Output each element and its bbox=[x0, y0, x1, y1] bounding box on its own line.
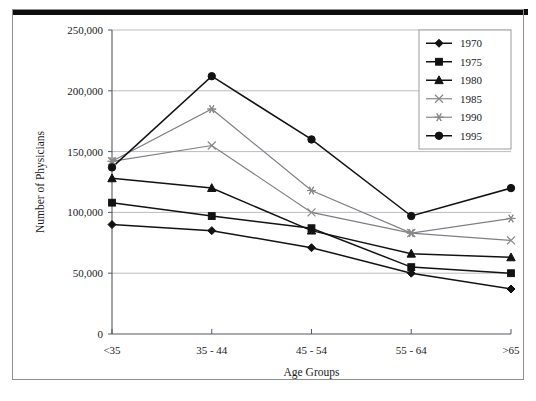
y-tick-label: 200,000 bbox=[67, 85, 103, 97]
legend-marker-1975 bbox=[436, 58, 443, 65]
y-tick-label: 50,000 bbox=[73, 267, 104, 279]
figure-page: 050,000100,000150,000200,000250,000 <353… bbox=[0, 0, 536, 401]
x-tick-label: 45 - 54 bbox=[296, 344, 328, 356]
marker-1970-35 - 44 bbox=[208, 227, 216, 235]
legend-label-1985: 1985 bbox=[460, 93, 483, 105]
y-axis-tick-labels: 050,000100,000150,000200,000250,000 bbox=[67, 24, 103, 340]
marker-1975->65 bbox=[508, 270, 515, 277]
marker-1995-<35 bbox=[108, 164, 115, 171]
axis-titles: Age GroupsNumber of Physicians bbox=[34, 130, 340, 379]
x-axis-title: Age Groups bbox=[284, 366, 340, 379]
legend-label-1970: 1970 bbox=[460, 37, 483, 49]
marker-1995-35 - 44 bbox=[208, 73, 215, 80]
marker-1975-55 - 64 bbox=[408, 264, 415, 271]
y-tick-label: 250,000 bbox=[67, 24, 103, 36]
chart-legend: 197019751980198519901995 bbox=[419, 30, 511, 149]
y-tick-label: 0 bbox=[98, 328, 104, 340]
legend-label-1990: 1990 bbox=[460, 111, 483, 123]
marker-1990->65 bbox=[507, 215, 516, 223]
legend-label-1975: 1975 bbox=[460, 56, 483, 68]
y-tick-label: 100,000 bbox=[67, 206, 103, 218]
marker-1995->65 bbox=[507, 184, 514, 191]
marker-1970-<35 bbox=[108, 221, 116, 229]
x-tick-label: 55 - 64 bbox=[396, 344, 428, 356]
marker-1970->65 bbox=[507, 285, 515, 293]
marker-1995-55 - 64 bbox=[408, 212, 415, 219]
marker-1995-45 - 54 bbox=[308, 136, 315, 143]
x-tick-label: >65 bbox=[502, 344, 520, 356]
y-axis-title: Number of Physicians bbox=[34, 130, 47, 233]
marker-1970-45 - 54 bbox=[308, 244, 316, 252]
y-tick-label: 150,000 bbox=[67, 146, 103, 158]
marker-1975-35 - 44 bbox=[208, 213, 215, 220]
legend-marker-1995 bbox=[435, 132, 442, 139]
x-axis-tick-labels: <3535 - 4445 - 5455 - 64>65 bbox=[103, 344, 520, 356]
legend-label-1980: 1980 bbox=[460, 74, 483, 86]
x-axis-ticks bbox=[112, 329, 511, 334]
x-tick-label: <35 bbox=[103, 344, 121, 356]
line-chart: 050,000100,000150,000200,000250,000 <353… bbox=[0, 0, 536, 401]
marker-1975-<35 bbox=[109, 199, 116, 206]
legend-label-1995: 1995 bbox=[460, 130, 483, 142]
marker-1980-<35 bbox=[108, 174, 116, 182]
x-tick-label: 35 - 44 bbox=[196, 344, 228, 356]
